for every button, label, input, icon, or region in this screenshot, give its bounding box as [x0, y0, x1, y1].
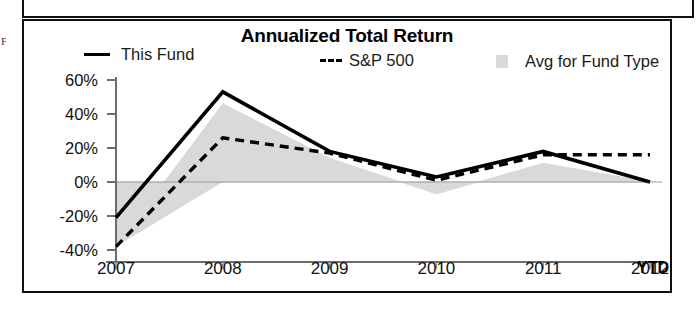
annualized-total-return-chart-panel: Annualized Total Return This Fund S&P 50…	[22, 19, 672, 293]
plot-area: -40%-20%0%20%40%60% YTD 2007200820092010…	[24, 21, 670, 291]
y-axis-tick-label: 40%	[32, 105, 98, 124]
y-axis-tick-label: 60%	[32, 71, 98, 90]
y-axis-labels: -40%-20%0%20%40%60%	[32, 21, 98, 291]
x-axis-tick-label: 2009	[311, 259, 349, 279]
y-axis-tick-label: 0%	[32, 173, 98, 192]
page-edge-artifact: F	[1, 36, 6, 47]
x-axis-tick-label: 2011	[525, 259, 562, 279]
chart-svg	[24, 21, 670, 291]
y-axis-tick-label: -20%	[32, 207, 98, 226]
x-axis-tick-label: 2007	[97, 259, 135, 279]
partial-panel-above	[22, 0, 694, 18]
x-axis-tick-label: 2010	[417, 259, 455, 279]
y-axis-tick-label: -40%	[32, 241, 98, 260]
x-axis-labels: YTD 200720082009201020112012	[24, 259, 670, 289]
x-axis-tick-label: 2008	[204, 259, 242, 279]
x-axis-tick-label: 2012	[631, 259, 669, 279]
y-axis-tick-label: 20%	[32, 139, 98, 158]
